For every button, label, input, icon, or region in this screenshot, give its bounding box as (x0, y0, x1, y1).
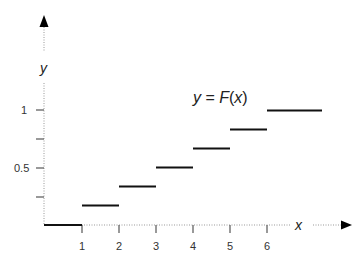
function-annotation: y = F(x) (192, 89, 248, 106)
x-tick-label-4: 4 (190, 240, 196, 252)
x-axis-label: x (294, 217, 303, 233)
y-tick-label-1: 1 (21, 104, 27, 116)
annotation-close: ) (242, 89, 247, 106)
x-axis: x 1 2 3 4 5 6 (44, 217, 352, 252)
x-tick-label-3: 3 (153, 240, 159, 252)
x-tick-label-2: 2 (116, 240, 122, 252)
x-tick-label-5: 5 (227, 240, 233, 252)
y-tick-label-05: 0.5 (14, 162, 29, 174)
y-axis-label: y (39, 60, 48, 76)
y-axis-arrowhead-icon (40, 15, 49, 27)
x-axis-arrowhead-icon (341, 221, 352, 230)
y-axis: y 1 0.5 (14, 15, 49, 225)
x-tick-label-1: 1 (79, 240, 85, 252)
step-function-chart: y 1 0.5 x 1 2 3 4 5 6 (0, 0, 363, 263)
annotation-eq: = (201, 89, 219, 106)
step-series (44, 111, 322, 226)
x-tick-label-6: 6 (264, 240, 270, 252)
